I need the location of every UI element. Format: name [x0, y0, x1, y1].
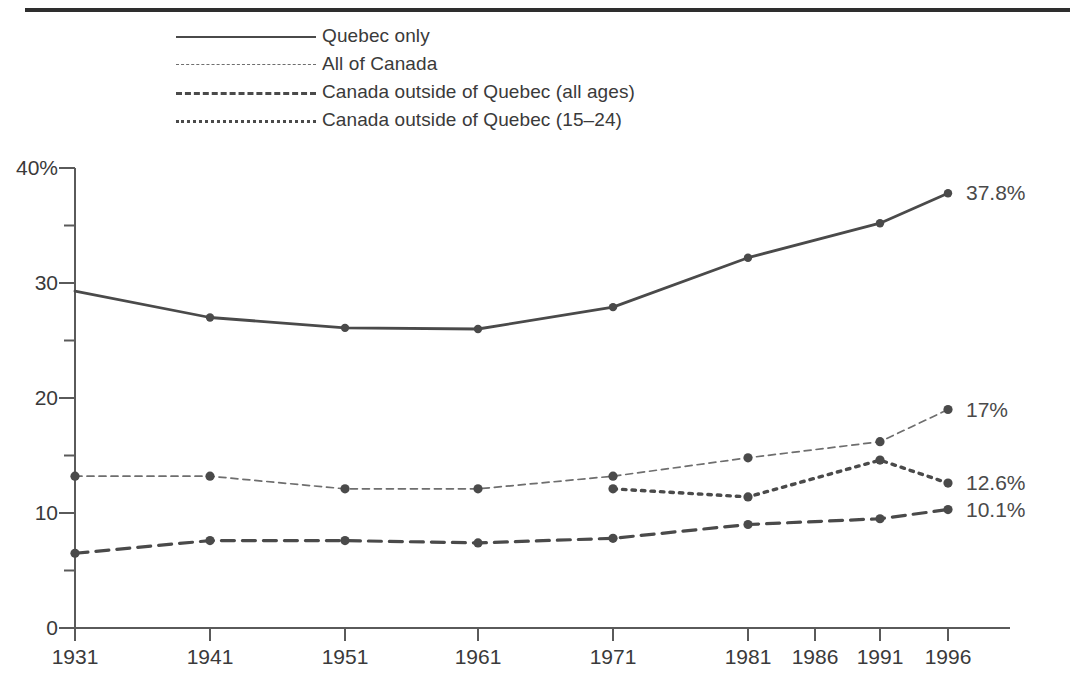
x-axis-tick-label: 1996: [925, 645, 972, 669]
y-axis-tick-label: 40%: [0, 156, 58, 180]
y-axis-tick-label: 10: [0, 501, 58, 525]
chart-svg: [0, 0, 1077, 695]
series-end-label: 10.1%: [966, 498, 1026, 522]
x-axis-tick-label: 1986: [792, 645, 839, 669]
x-axis-tick-label: 1961: [455, 645, 502, 669]
x-axis-tick-label: 1981: [725, 645, 772, 669]
chart-series-lines: [75, 193, 948, 553]
x-axis-tick-label: 1941: [187, 645, 234, 669]
chart-figure: Quebec only All of Canada Canada outside…: [0, 0, 1077, 695]
x-axis-tick-label: 1951: [322, 645, 369, 669]
series-end-label: 37.8%: [966, 181, 1026, 205]
series-end-label: 17%: [966, 398, 1008, 422]
y-axis-tick-label: 20: [0, 386, 58, 410]
x-axis-tick-label: 1931: [52, 645, 99, 669]
series-end-label: 12.6%: [966, 471, 1026, 495]
x-axis-tick-label: 1991: [857, 645, 904, 669]
y-axis-tick-label: 30: [0, 271, 58, 295]
y-axis-tick-label: 0: [0, 616, 58, 640]
chart-series-markers: [70, 189, 952, 558]
x-axis-tick-label: 1971: [590, 645, 637, 669]
chart-plot-area: 40%3020100 19311941195119611971198119861…: [0, 0, 1077, 695]
chart-axes: [59, 168, 1010, 641]
